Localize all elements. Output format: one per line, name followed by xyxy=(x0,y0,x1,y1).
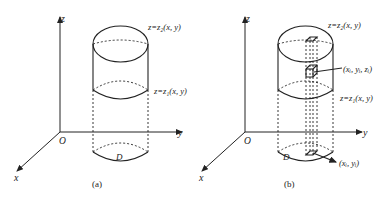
bottom-surface-label-a: z=z₁(x, y) xyxy=(153,86,187,96)
top-surface-label-b: z=z₂(x, y) xyxy=(327,20,361,30)
origin-label-b: O xyxy=(244,136,251,146)
x-axis-label-a: x xyxy=(13,172,19,183)
figure-container: z y x O z=z₂(x, y) z=z₁(x, y) D (a) xyxy=(0,0,387,202)
point-leader-line xyxy=(314,68,342,72)
x-axis-b xyxy=(202,132,245,171)
y-axis-label-b: y xyxy=(362,127,368,138)
point-label-b: (xᵢ, yᵢ, zᵢ) xyxy=(343,64,372,74)
z-axis-label-b: z xyxy=(245,13,250,24)
prism-column xyxy=(306,37,317,155)
x-axis-a xyxy=(17,132,60,171)
base-point-label-b: (xᵢ, yᵢ) xyxy=(339,158,359,168)
x-axis-label-b: x xyxy=(198,172,204,183)
y-axis-label-a: y xyxy=(177,127,183,138)
caption-a: (a) xyxy=(92,179,102,189)
caption-b: (b) xyxy=(284,179,295,189)
figure-a: z y x O z=z₂(x, y) z=z₁(x, y) D (a) xyxy=(13,13,187,189)
top-surface-label-a: z=z₂(x, y) xyxy=(147,22,181,32)
figure-b: z y x O z=z₂(x, y) (xᵢ, yᵢ, zᵢ) z=z₁(x, … xyxy=(198,13,373,189)
bottom-surface-label-b: z=z₁(x, y) xyxy=(339,93,373,103)
region-label-b: D xyxy=(282,152,290,162)
base-point-leader-line xyxy=(313,153,336,162)
cylinder-b xyxy=(278,26,333,161)
cylinder-a xyxy=(93,26,148,161)
region-label-a: D xyxy=(115,152,123,162)
origin-label-a: O xyxy=(59,136,66,146)
z-axis-label-a: z xyxy=(60,13,65,24)
